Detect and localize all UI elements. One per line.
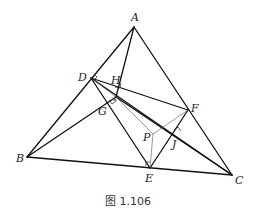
label-B: B (15, 152, 24, 165)
label-J: J (170, 138, 177, 151)
label-A: A (130, 11, 139, 24)
label-D: D (77, 71, 87, 84)
segment-AC (134, 27, 232, 175)
segment-DE (91, 78, 150, 168)
label-F: F (190, 102, 199, 115)
segment-KC (116, 97, 232, 175)
segment-KP (116, 97, 153, 134)
figure-caption: 图 1.106 (105, 195, 151, 208)
segment-PF (153, 110, 188, 134)
label-G: G (98, 105, 107, 118)
label-E: E (144, 172, 153, 185)
segment-PE (150, 134, 153, 168)
label-K: K (112, 95, 118, 102)
label-C: C (235, 174, 244, 187)
label-H: H (110, 74, 121, 87)
segment-BC (27, 157, 232, 175)
label-P: P (142, 131, 151, 144)
segment-EF (150, 110, 188, 168)
geometry-figure: A B C D E F G H P J K 图 1.106 (0, 0, 254, 218)
